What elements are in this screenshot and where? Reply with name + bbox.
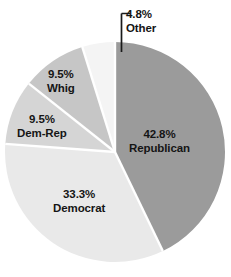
pie-label-democrat: 33.3% Democrat — [53, 188, 105, 215]
pie-label-whig-percent: 9.5% — [47, 68, 75, 82]
pie-label-republican-percent: 42.8% — [129, 128, 190, 142]
pie-label-democrat-name: Democrat — [53, 202, 105, 216]
pie-label-other: 4.8% Other — [126, 8, 156, 35]
pie-label-whig: 9.5% Whig — [47, 68, 75, 95]
pie-label-other-percent: 4.8% — [126, 8, 156, 22]
pie-label-republican-name: Republican — [129, 142, 190, 156]
pie-label-dem-rep-percent: 9.5% — [17, 113, 67, 127]
pie-label-whig-name: Whig — [47, 82, 75, 96]
pie-chart: 4.8% Other 42.8% Republican 33.3% Democr… — [0, 0, 231, 277]
pie-label-republican: 42.8% Republican — [129, 128, 190, 155]
pie-label-dem-rep-name: Dem-Rep — [17, 127, 67, 141]
pie-label-dem-rep: 9.5% Dem-Rep — [17, 113, 67, 140]
pie-label-other-name: Other — [126, 22, 156, 36]
pie-label-democrat-percent: 33.3% — [53, 188, 105, 202]
